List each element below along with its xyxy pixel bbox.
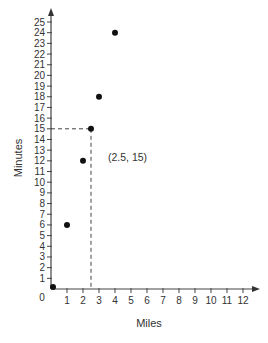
origin-label: 0 xyxy=(39,292,45,303)
x-tick-label: 3 xyxy=(96,295,102,306)
y-tick-label: 21 xyxy=(34,59,46,70)
y-tick-label: 1 xyxy=(39,273,45,284)
x-tick-label: 1 xyxy=(64,295,70,306)
x-tick-label: 4 xyxy=(112,295,118,306)
x-tick-label: 11 xyxy=(222,295,233,306)
x-tick-label: 6 xyxy=(144,295,150,306)
y-tick-label: 12 xyxy=(34,155,46,166)
y-tick-label: 5 xyxy=(39,230,45,241)
data-point xyxy=(112,30,118,36)
y-tick-label: 25 xyxy=(34,17,46,28)
x-tick-label: 5 xyxy=(128,295,134,306)
point-annotation: (2.5, 15) xyxy=(108,151,147,163)
axes xyxy=(48,8,260,292)
scatter-chart: 1234567891011121314151617181920212223242… xyxy=(0,0,268,343)
y-tick-label: 9 xyxy=(39,187,45,198)
data-point xyxy=(50,284,56,290)
y-tick-label: 15 xyxy=(34,123,46,134)
x-tick-label: 9 xyxy=(192,295,198,306)
y-tick-label: 7 xyxy=(39,209,45,220)
y-tick-label: 14 xyxy=(34,134,46,145)
x-tick-label: 2 xyxy=(80,295,86,306)
y-tick-label: 10 xyxy=(34,177,46,188)
y-tick-label: 8 xyxy=(39,198,45,209)
guide-lines xyxy=(51,129,91,289)
y-tick-label: 23 xyxy=(34,38,46,49)
x-tick-label: 10 xyxy=(205,295,217,306)
y-tick-label: 3 xyxy=(39,251,45,262)
x-axis-arrow-icon xyxy=(252,286,260,292)
y-tick-label: 19 xyxy=(34,81,46,92)
x-axis-title: Miles xyxy=(136,317,162,329)
y-tick-label: 17 xyxy=(34,102,46,113)
x-tick-label: 8 xyxy=(176,295,182,306)
y-tick-label: 24 xyxy=(34,27,46,38)
y-tick-label: 16 xyxy=(34,113,46,124)
y-tick-label: 4 xyxy=(39,241,45,252)
y-tick-label: 6 xyxy=(39,219,45,230)
y-tick-label: 20 xyxy=(34,70,46,81)
y-tick-label: 22 xyxy=(34,49,46,60)
data-point xyxy=(64,222,70,228)
data-point xyxy=(88,126,94,132)
data-point xyxy=(80,158,86,164)
data-point xyxy=(96,94,102,100)
x-tick-label: 12 xyxy=(237,295,249,306)
y-axis-title: Minutes xyxy=(12,138,24,177)
x-tick-label: 7 xyxy=(160,295,166,306)
y-tick-label: 13 xyxy=(34,145,46,156)
y-tick-label: 2 xyxy=(39,262,45,273)
y-axis-arrow-icon xyxy=(48,8,54,16)
y-tick-label: 18 xyxy=(34,91,46,102)
y-tick-label: 11 xyxy=(35,166,46,177)
